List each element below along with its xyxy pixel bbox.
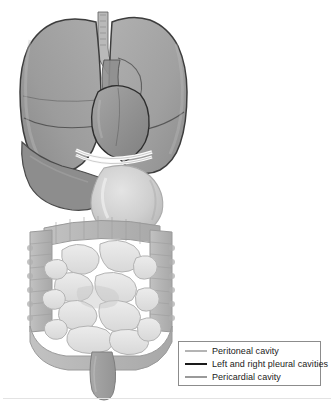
legend-item-pleural: Left and right pleural cavities [183,358,316,370]
legend-label-pleural: Left and right pleural cavities [212,358,328,370]
legend-label-pericardial: Pericardial cavity [212,371,281,383]
heart [92,86,149,159]
line-swatch-peritoneal [185,350,207,352]
line-swatch-pericardial [185,376,207,378]
legend-item-peritoneal: Peritoneal cavity [183,345,316,357]
legend-label-peritoneal: Peritoneal cavity [212,345,279,357]
legend-item-pericardial: Pericardial cavity [183,371,316,383]
page-bottom-rule [3,398,331,399]
line-swatch-pleural [185,363,207,365]
anatomy-figure: Peritoneal cavity Left and right pleural… [0,0,335,407]
legend-box: Peritoneal cavity Left and right pleural… [178,341,321,386]
rectum [90,352,116,400]
right-lung [20,19,101,172]
